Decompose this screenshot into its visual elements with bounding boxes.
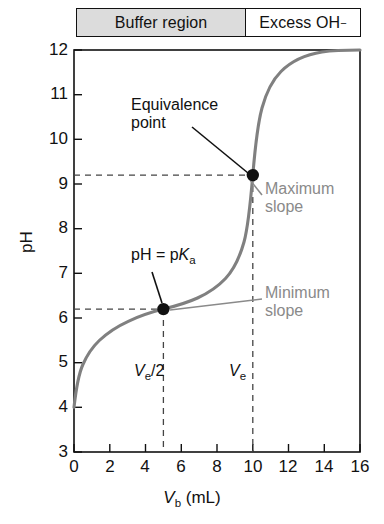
- label-ve-subscript: e: [240, 370, 246, 382]
- label-ve-half-suffix: /2: [151, 362, 164, 379]
- label-ve: Ve: [229, 362, 246, 380]
- annotation-minimum-slope-line2: slope: [265, 302, 330, 320]
- x-axis-ticks: [74, 444, 360, 452]
- y-tick-label: 5: [34, 352, 68, 372]
- annotation-ph-equals-pka: pH = pKa: [131, 246, 196, 264]
- y-tick-label: 11: [34, 84, 68, 104]
- x-tick-label: 12: [268, 457, 308, 477]
- x-axis-title-unit: (mL): [181, 488, 221, 507]
- x-axis-title: Vb (mL): [0, 488, 384, 508]
- x-tick-label: 14: [304, 457, 344, 477]
- annotation-equivalence-point: Equivalence point: [131, 96, 218, 132]
- label-ve-half-var: V: [134, 362, 145, 379]
- annotation-minimum-slope-line1: Minimum: [265, 284, 330, 302]
- annotation-equivalence-line2: point: [131, 114, 218, 132]
- leader-equivalence-point: [192, 127, 248, 173]
- y-axis-title: pH: [17, 212, 37, 272]
- x-tick-label: 4: [125, 457, 165, 477]
- annotation-minimum-slope: Minimum slope: [265, 284, 330, 320]
- x-tick-label: 2: [90, 457, 130, 477]
- annotation-maximum-slope-line2: slope: [265, 198, 334, 216]
- y-tick-label: 12: [34, 40, 68, 60]
- annotation-equivalence-line1: Equivalence: [131, 96, 218, 114]
- y-tick-label: 4: [34, 397, 68, 417]
- y-tick-label: 7: [34, 263, 68, 283]
- annotation-pka-prefix: pH = p: [131, 246, 179, 263]
- y-tick-label: 9: [34, 174, 68, 194]
- label-ve-half: Ve/2: [134, 362, 164, 380]
- x-axis-title-var: V: [163, 488, 174, 507]
- x-tick-label: 8: [197, 457, 237, 477]
- y-tick-label: 6: [34, 308, 68, 328]
- label-ve-var: V: [229, 362, 240, 379]
- chart-figure: Buffer region Excess OH−: [0, 0, 384, 524]
- leader-pka-point: [152, 272, 162, 303]
- annotation-pka-subscript: a: [189, 254, 195, 266]
- y-tick-label: 10: [34, 129, 68, 149]
- y-tick-label: 8: [34, 218, 68, 238]
- marker-pka-point: [157, 303, 169, 315]
- marker-equivalence-point: [247, 169, 259, 181]
- x-tick-label: 6: [161, 457, 201, 477]
- x-tick-label: 0: [54, 457, 94, 477]
- x-tick-label: 10: [233, 457, 273, 477]
- x-tick-label: 16: [340, 457, 380, 477]
- annotation-pka-var: K: [179, 246, 190, 263]
- annotation-maximum-slope: Maximum slope: [265, 180, 334, 216]
- annotation-maximum-slope-line1: Maximum: [265, 180, 334, 198]
